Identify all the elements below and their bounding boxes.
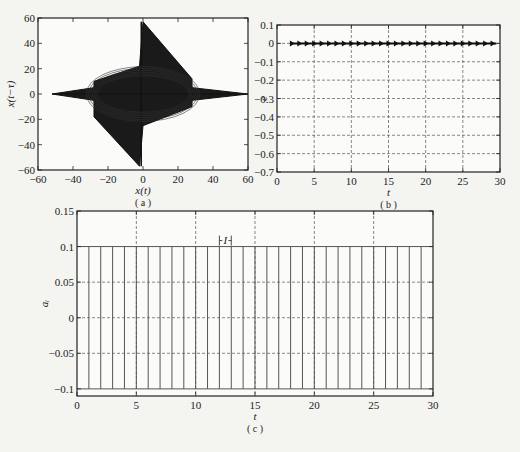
x-axis-label: x(t) <box>134 184 151 197</box>
y-tick-label: 20 <box>24 63 36 75</box>
x-tick-label: 30 <box>495 175 507 187</box>
y-tick-label: 0.15 <box>55 205 75 217</box>
x-tick-label: −40 <box>64 173 82 185</box>
y-axis-label: x(t−τ) <box>4 80 17 108</box>
figure-caption: ( b ) <box>380 199 397 211</box>
y-tick-label: 0.05 <box>55 276 75 288</box>
y-tick-label: 0 <box>269 37 275 49</box>
y-tick-label: −0.6 <box>254 148 274 160</box>
x-tick-label: 10 <box>190 399 202 411</box>
y-axis-label: e <box>257 96 269 101</box>
x-axis-label: t <box>253 410 257 422</box>
y-tick-label: 0 <box>30 88 36 100</box>
chart-b: 0510152025300.10−0.1−0.2−0.3−0.4−0.5−0.6… <box>254 19 506 211</box>
y-tick-label: −0.4 <box>254 111 274 123</box>
x-tick-label: 25 <box>457 175 469 187</box>
x-tick-label: 30 <box>428 399 440 411</box>
y-tick-label: −0.1 <box>54 383 74 395</box>
y-tick-label: 0.1 <box>260 19 274 31</box>
chart-a: −60−40−200204060−60−40−200204060x(t)x(t−… <box>4 12 254 209</box>
y-tick-label: 0 <box>69 312 75 324</box>
y-axis-label: aᵢ <box>38 300 50 308</box>
y-tick-label: −0.1 <box>254 56 274 68</box>
x-tick-label: 0 <box>274 175 280 187</box>
x-tick-label: 5 <box>134 399 140 411</box>
x-tick-label: −20 <box>99 173 117 185</box>
figure-canvas: −60−40−200204060−60−40−200204060x(t)x(t−… <box>0 0 520 452</box>
chart-c: I0510152025300.150.10.050−0.05−0.1taᵢ( c… <box>38 205 439 435</box>
y-tick-label: −0.5 <box>254 129 274 141</box>
y-tick-label: 0.1 <box>60 241 74 253</box>
y-tick-label: −0.05 <box>49 347 75 359</box>
y-tick-label: −60 <box>18 164 36 176</box>
x-tick-label: 10 <box>346 175 358 187</box>
figure-caption: ( a ) <box>135 197 151 209</box>
y-tick-label: −40 <box>18 139 36 151</box>
y-tick-label: 60 <box>24 12 36 24</box>
x-tick-label: 60 <box>243 173 255 185</box>
x-tick-label: 20 <box>173 173 185 185</box>
x-tick-label: 40 <box>208 173 220 185</box>
x-tick-label: 20 <box>420 175 432 187</box>
x-tick-label: 5 <box>311 175 317 187</box>
y-tick-label: −0.2 <box>254 74 274 86</box>
figure-caption: ( c ) <box>247 423 263 435</box>
y-tick-label: 40 <box>24 37 36 49</box>
x-tick-label: 20 <box>309 399 321 411</box>
x-axis-label: t <box>387 186 391 198</box>
x-tick-label: 25 <box>368 399 380 411</box>
x-tick-label: 0 <box>74 399 80 411</box>
y-tick-label: −20 <box>18 113 36 125</box>
y-tick-label: −0.7 <box>254 166 274 178</box>
